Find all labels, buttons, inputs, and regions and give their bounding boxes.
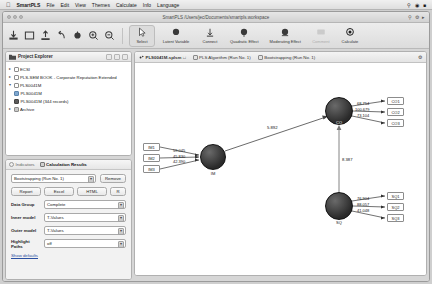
construct-sq[interactable] (325, 192, 353, 220)
toolbar-more-icon[interactable]: ▸ (422, 14, 425, 20)
model-editor: PLS0041M.splsm □ PLS Algorithm (Run No. … (134, 51, 427, 276)
tab-indicators-label: Indicators (16, 162, 35, 167)
model-canvas[interactable]: IM CO SQ IM1 IM2 IM3 CO1 CO2 CO3 SQ1 (135, 63, 426, 275)
calculate-tool[interactable]: Calculate (337, 25, 363, 47)
import-icon[interactable] (7, 27, 20, 45)
window-title: SmartPLS /Users/jec/Documents/smartpls.w… (3, 15, 429, 20)
indicator-sq2[interactable]: SQ2 (387, 203, 404, 211)
remove-button[interactable]: Remove (100, 174, 126, 183)
tree-node-pls0041m[interactable]: ▾ PLS0041M (8, 81, 129, 89)
battery-icon[interactable]: ■ (423, 2, 426, 8)
construct-im[interactable] (200, 144, 226, 170)
zoom-out-icon[interactable] (103, 27, 116, 45)
tree-node-archive[interactable]: ▸ Archive (8, 105, 129, 113)
tree-node-label: PLS0041M (344 records) (21, 99, 69, 104)
apple-menu-icon[interactable]:  (6, 2, 11, 8)
inner-model-row: Inner model T-Values ▾ (11, 213, 126, 222)
html-button[interactable]: HTML (77, 187, 107, 196)
window-content: Project Explorer ▸ ECSI (3, 49, 429, 282)
tree-node-ecsi[interactable]: ▸ ECSI (8, 65, 129, 73)
tab-model-file-label: PLS0041M.splsm (146, 55, 182, 60)
search-icon[interactable]: ⚲ (407, 2, 411, 8)
inner-model-select[interactable]: T-Values ▾ (44, 213, 126, 222)
tab-indicators[interactable]: Indicators (9, 162, 35, 167)
indicator-im2[interactable]: IM2 (143, 154, 160, 162)
data-group-value: Complete (47, 202, 65, 207)
zoom-in-icon[interactable] (87, 27, 100, 45)
moderating-effect-tool[interactable]: Moderating Effect (266, 25, 305, 47)
loading-value-sq1: 76.904 (357, 196, 369, 201)
loading-value-co3: 73.104 (357, 113, 369, 118)
loading-value-co1: 68.754 (357, 101, 369, 106)
run-select[interactable]: Bootstrapping (Run No. 1) ▾ (11, 174, 96, 183)
tree-node-pls0041m-data[interactable]: PLS0041M (344 records) (8, 97, 129, 105)
project-tree[interactable]: ▸ ECSI ▸ PLS-SEM BOOK - Corporate Reputa… (6, 62, 131, 155)
run-selection-row: Bootstrapping (Run No. 1) ▾ Remove (11, 174, 126, 183)
titlebar-right-icons: ⚲ ⚙ ▸ (408, 14, 425, 20)
menu-item-themes[interactable]: Themes (92, 2, 110, 8)
tree-node-pls0041m-model[interactable]: PLS0041M (8, 89, 129, 97)
r-button[interactable]: R (110, 187, 126, 196)
chevron-down-icon[interactable]: ▾ (118, 215, 124, 222)
select-tool[interactable]: Select (129, 25, 155, 47)
wifi-icon[interactable]: ◉ (415, 2, 419, 8)
toolbar-search-icon[interactable]: ⚲ (408, 14, 412, 20)
latent-variable-tool[interactable]: Latent Variable (158, 25, 194, 47)
tab-calculation-results[interactable]: Calculation Results (40, 162, 87, 167)
disclosure-arrow-icon[interactable]: ▾ (8, 83, 12, 87)
report-button[interactable]: Report (11, 187, 41, 196)
indicator-co1[interactable]: CO1 (387, 97, 404, 105)
chevron-down-icon[interactable]: ▾ (118, 241, 124, 248)
indicator-co3[interactable]: CO3 (387, 119, 404, 127)
chevron-down-icon[interactable]: ▾ (88, 176, 94, 183)
outer-model-select[interactable]: T-Values ▾ (44, 226, 126, 235)
expand-all-icon[interactable] (114, 54, 120, 60)
calculation-results-panel: Indicators Calculation Results Bootstrap… (5, 159, 132, 280)
disclosure-arrow-icon[interactable]: ▸ (8, 75, 12, 79)
tab-pls-algorithm[interactable]: PLS Algorithm (Run No. 1) (193, 55, 251, 60)
quadratic-effect-tool-label: Quadratic Effect (230, 39, 259, 44)
menu-item-file[interactable]: File (46, 2, 54, 8)
toolbar-settings-icon[interactable]: ⚙ (415, 14, 419, 20)
indicator-im3[interactable]: IM3 (143, 165, 160, 173)
chevron-down-icon[interactable]: ▾ (118, 228, 124, 235)
data-group-select[interactable]: Complete ▾ (44, 200, 126, 209)
quadratic-effect-tool[interactable]: Quadratic Effect (226, 25, 263, 47)
comment-tool[interactable]: Comment (308, 25, 334, 47)
menu-item-edit[interactable]: Edit (60, 2, 69, 8)
loading-value-im2: 45.830 (173, 154, 185, 159)
disclosure-arrow-icon[interactable]: ▸ (8, 107, 12, 111)
menu-app-name[interactable]: SmartPLS (17, 2, 41, 8)
gear-icon[interactable]: ⚙ (418, 54, 422, 60)
macos-menu-bar:  SmartPLS File Edit View Themes Calcula… (0, 0, 432, 10)
menu-item-info[interactable]: Info (143, 2, 151, 8)
new-project-icon[interactable] (23, 27, 36, 45)
chevron-down-icon[interactable]: ▾ (118, 202, 124, 209)
excel-button[interactable]: Excel (44, 187, 74, 196)
redo-icon[interactable] (71, 27, 84, 45)
highlight-paths-select[interactable]: off ▾ (44, 239, 126, 248)
disclosure-arrow-icon[interactable]: ▸ (8, 67, 12, 71)
indicator-co2[interactable]: CO2 (387, 108, 404, 116)
menu-item-calculate[interactable]: Calculate (116, 2, 137, 8)
highlight-paths-label: Highlight Paths (11, 239, 41, 249)
tab-model-file[interactable]: PLS0041M.splsm □ (139, 55, 186, 60)
indicator-sq3[interactable]: SQ3 (387, 214, 404, 222)
export-buttons-row: Report Excel HTML R (11, 187, 126, 196)
show-defaults-link[interactable]: Show defaults (11, 253, 126, 258)
export-icon[interactable] (39, 27, 52, 45)
menu-icon[interactable] (122, 54, 128, 60)
menu-item-view[interactable]: View (75, 2, 86, 8)
menu-item-language[interactable]: Language (157, 2, 179, 8)
tree-node-pls-sem-book[interactable]: ▸ PLS-SEM BOOK - Corporate Reputation Ex… (8, 73, 129, 81)
connect-tool[interactable]: Connect (197, 25, 223, 47)
tab-bootstrapping[interactable]: Bootstrapping (Run No. 1) (258, 55, 316, 60)
collapse-all-icon[interactable] (106, 54, 112, 60)
data-group-row: Data Group Complete ▾ (11, 200, 126, 209)
path-value-im-co: 5.892 (267, 125, 277, 130)
undo-icon[interactable] (55, 27, 68, 45)
editor-area: PLS0041M.splsm □ PLS Algorithm (Run No. … (134, 49, 429, 282)
indicator-im1[interactable]: IM1 (143, 143, 160, 151)
indicator-sq1[interactable]: SQ1 (387, 192, 404, 200)
run-select-value: Bootstrapping (Run No. 1) (14, 176, 64, 181)
